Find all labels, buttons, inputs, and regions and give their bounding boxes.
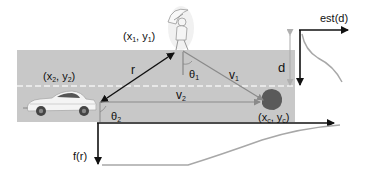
- d-label: d: [278, 60, 285, 75]
- est-d-plot: [299, 30, 348, 85]
- est-d-curve: [302, 34, 342, 82]
- f-r-plot: [97, 123, 340, 165]
- f-r-label: f(r): [73, 150, 87, 162]
- scene-diagram: (x1, y1) (x2, y2) (xc, yc) r θ1 θ2 v1 v2…: [0, 0, 368, 175]
- f-r-curve: [102, 125, 340, 165]
- est-d-label: est(d): [320, 12, 348, 24]
- pedestrian-icon: [168, 6, 194, 50]
- r-label: r: [131, 63, 135, 77]
- obstacle-icon: [262, 89, 282, 110]
- pedestrian-position-label: (x1, y1): [123, 30, 155, 43]
